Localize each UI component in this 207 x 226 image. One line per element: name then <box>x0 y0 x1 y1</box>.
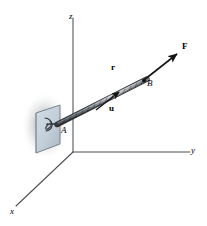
cable-A-to-B <box>57 78 147 126</box>
x-axis <box>16 152 73 206</box>
diagram-svg <box>0 0 207 226</box>
y-axis-label: y <box>191 146 195 155</box>
vector-label-F: F <box>182 42 188 51</box>
figure-canvas: z y x A B F r u <box>0 0 207 226</box>
vector-label-u: u <box>109 104 114 113</box>
point-label-B: B <box>147 79 153 88</box>
point-label-A: A <box>61 126 67 135</box>
z-axis-label: z <box>69 12 73 21</box>
x-axis-label: x <box>10 207 14 216</box>
force-vector-F <box>144 54 177 80</box>
vector-label-r: r <box>111 63 115 72</box>
